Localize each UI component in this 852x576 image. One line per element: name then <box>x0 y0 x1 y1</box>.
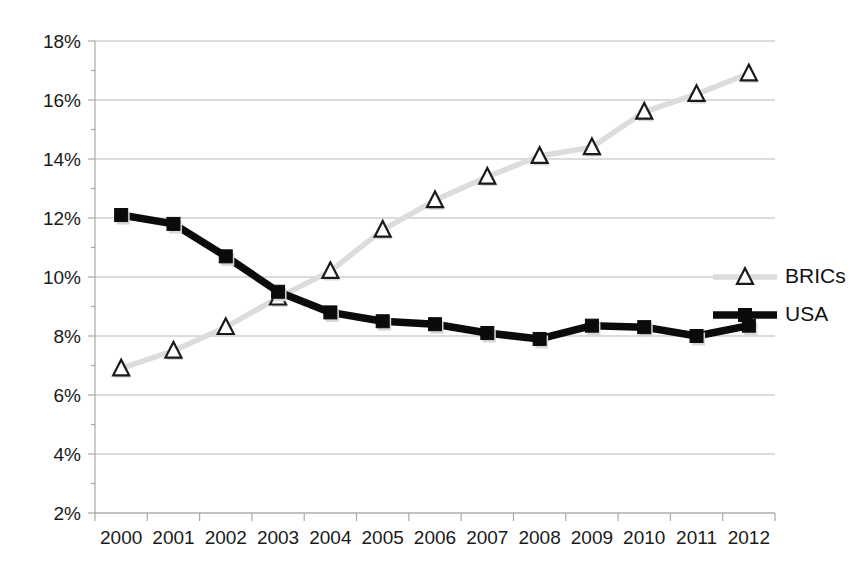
data-point-usa <box>272 285 285 298</box>
x-tick-label: 2006 <box>414 527 456 548</box>
data-point-usa <box>429 318 442 331</box>
y-tick-label: 14% <box>43 149 81 170</box>
x-tick-label: 2002 <box>205 527 247 548</box>
x-tick-label: 2000 <box>100 527 142 548</box>
x-tick-label: 2004 <box>309 527 352 548</box>
data-point-usa <box>376 315 389 328</box>
chart-background <box>0 0 852 576</box>
y-tick-label: 18% <box>43 31 81 52</box>
data-point-usa <box>167 217 180 230</box>
y-tick-label: 2% <box>54 503 82 524</box>
y-tick-label: 10% <box>43 267 81 288</box>
y-tick-label: 16% <box>43 90 81 111</box>
data-point-usa <box>638 321 651 334</box>
line-chart: 2%4%6%8%10%12%14%16%18% 2000200120022003… <box>0 0 852 576</box>
data-point-usa <box>690 330 703 343</box>
x-tick-label: 2008 <box>518 527 560 548</box>
chart-container: 2%4%6%8%10%12%14%16%18% 2000200120022003… <box>0 0 852 576</box>
x-tick-label: 2003 <box>257 527 299 548</box>
data-point-usa <box>115 209 128 222</box>
y-tick-label: 12% <box>43 208 81 229</box>
x-tick-label: 2012 <box>728 527 770 548</box>
y-tick-label: 4% <box>54 444 82 465</box>
data-point-usa <box>533 332 546 345</box>
legend-square-icon <box>739 309 752 322</box>
x-tick-label: 2001 <box>152 527 194 548</box>
data-point-usa <box>219 250 232 263</box>
x-tick-label: 2007 <box>466 527 508 548</box>
x-tick-label: 2010 <box>623 527 665 548</box>
legend-label: BRICs <box>785 264 846 287</box>
x-tick-label: 2011 <box>676 527 717 548</box>
x-tick-label: 2009 <box>571 527 613 548</box>
data-point-usa <box>324 306 337 319</box>
legend-label: USA <box>785 302 828 325</box>
data-point-usa <box>585 319 598 332</box>
y-tick-label: 6% <box>54 385 82 406</box>
y-tick-label: 8% <box>54 326 82 347</box>
data-point-usa <box>481 327 494 340</box>
x-tick-label: 2005 <box>362 527 404 548</box>
